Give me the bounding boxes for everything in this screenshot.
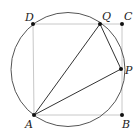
segment-qp xyxy=(100,24,121,69)
edge-da xyxy=(33,24,34,115)
point-p xyxy=(119,67,123,71)
label-p: P xyxy=(124,64,133,77)
label-a: A xyxy=(24,118,33,131)
geometry-diagram: D Q C P A B xyxy=(0,0,138,131)
circle xyxy=(11,13,125,127)
segment-ap xyxy=(34,69,121,115)
label-c: C xyxy=(124,10,133,23)
label-b: B xyxy=(121,118,130,131)
label-q: Q xyxy=(102,10,111,23)
point-b xyxy=(120,113,124,117)
label-d: D xyxy=(24,11,34,24)
point-a xyxy=(32,113,36,117)
segment-aq xyxy=(34,24,100,115)
